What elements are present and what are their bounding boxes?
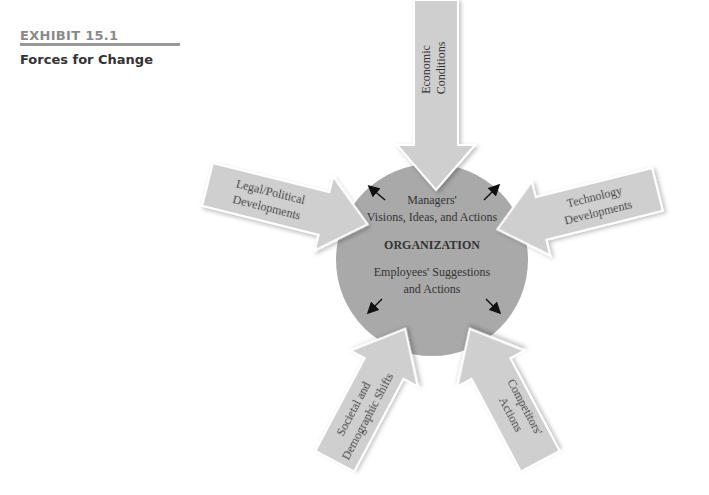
- center-organization-label: ORGANIZATION: [384, 238, 480, 252]
- force-label-economic-2: Conditions: [434, 41, 448, 94]
- center-employees-line1: Employees' Suggestions: [374, 265, 491, 279]
- center-managers-line1: Managers': [407, 193, 456, 207]
- forces-diagram: Economic Conditions Legal/Political Deve…: [0, 0, 709, 495]
- svg-text:Economic Conditions: Economic Conditions: [419, 41, 448, 94]
- force-label-economic-1: Economic: [419, 45, 433, 94]
- center-managers-line2: Visions, Ideas, and Actions: [367, 210, 498, 224]
- center-employees-line2: and Actions: [404, 282, 461, 296]
